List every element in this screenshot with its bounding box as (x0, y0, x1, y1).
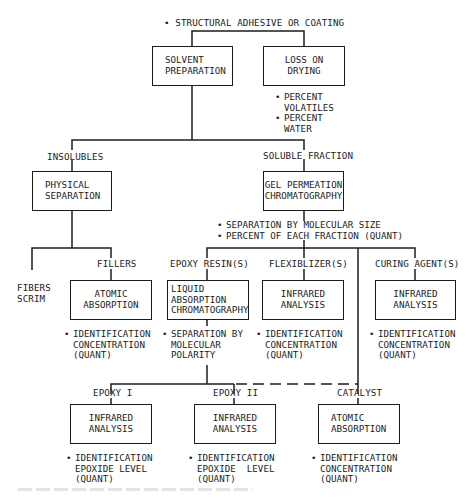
bullet-icon: • (217, 220, 226, 231)
solvent-preparation-box: SOLVENT PREPARATION (152, 46, 233, 86)
bullet-icon: • (66, 453, 75, 485)
epoxy-2-infrared-box: INFRARED ANALYSIS (194, 404, 276, 444)
gel-permeation-results: •SEPARATION BY MOLECULAR SIZE •PERCENT O… (217, 220, 403, 241)
fibers-scrim-label: FIBERS SCRIM (17, 283, 51, 304)
bullet-icon: • (369, 329, 378, 361)
fillers-results: •IDENTIFICATION CONCENTRATION (QUANT) (64, 329, 150, 361)
epoxy-1-results: •IDENTIFICATION EPOXIDE LEVEL (QUANT) (66, 453, 152, 485)
epoxy-resins-results-text: SEPARATION BY MOLECULAR POLARITY (171, 329, 243, 361)
bullet-icon: • (256, 329, 265, 361)
catalyst-label: CATALYST (337, 388, 382, 399)
result-percent-fraction: PERCENT OF EACH FRACTION (QUANT) (226, 231, 403, 242)
bullet-icon: • (64, 329, 73, 361)
root-node: • STRUCTURAL ADHESIVE OR COATING (164, 18, 344, 29)
flexiblizers-label: FLEXIBLIZER(S) (269, 259, 348, 270)
fillers-label: FILLERS (97, 259, 136, 270)
curing-agents-label: CURING AGENT(S) (375, 259, 459, 270)
bullet-icon: • (164, 17, 170, 28)
fillers-atomic-absorption-box: ATOMIC ABSORPTION (70, 280, 152, 320)
epoxy-resins-results: •SEPARATION BY MOLECULAR POLARITY (162, 329, 243, 361)
physical-separation-label: PHYSICAL SEPARATION (45, 180, 100, 201)
gel-permeation-box: GEL PERMEATION CHROMATOGRAPHY (263, 171, 344, 211)
flexiblizers-method-label: INFRARED ANALYSIS (281, 289, 325, 310)
flexiblizers-infrared-box: INFRARED ANALYSIS (262, 280, 344, 320)
bullet-icon: • (311, 453, 320, 485)
soluble-fraction-label: SOLUBLE FRACTION (263, 151, 353, 162)
insolubles-label: INSOLUBLES (47, 152, 103, 163)
epoxy-1-infrared-box: INFRARED ANALYSIS (70, 404, 152, 444)
epoxy-resins-label: EPOXY RESIN(S) (170, 259, 249, 270)
root-label: STRUCTURAL ADHESIVE OR COATING (175, 17, 344, 28)
physical-separation-box: PHYSICAL SEPARATION (32, 171, 112, 211)
flexiblizers-results: •IDENTIFICATION CONCENTRATION (QUANT) (256, 329, 342, 361)
epoxy-1-results-text: IDENTIFICATION EPOXIDE LEVEL (QUANT) (75, 453, 152, 485)
curing-agents-results-text: IDENTIFICATION CONCENTRATION (QUANT) (378, 329, 455, 361)
epoxy-2-label: EPOXY II (213, 388, 258, 399)
gel-permeation-label: GEL PERMEATION CHROMATOGRAPHY (265, 180, 342, 201)
loss-on-drying-box: LOSS ON DRYING (263, 46, 345, 86)
fillers-method-label: ATOMIC ABSORPTION (83, 289, 138, 310)
bullet-icon: • (217, 231, 226, 242)
epoxy-1-method-label: INFRARED ANALYSIS (89, 413, 133, 434)
catalyst-atomic-absorption-box: ATOMIC ABSORPTION (318, 404, 400, 444)
loss-on-drying-results: •PERCENT VOLATILES •PERCENT WATER (275, 92, 334, 134)
catalyst-results-text: IDENTIFICATION CONCENTRATION (QUANT) (320, 453, 397, 485)
solvent-preparation-label: SOLVENT PREPARATION (165, 55, 226, 76)
epoxy-resins-method-label: LIQUID ABSORPTION CHROMATOGRAPHY (171, 284, 248, 316)
catalyst-results: •IDENTIFICATION CONCENTRATION (QUANT) (311, 453, 397, 485)
bullet-icon: • (275, 92, 284, 113)
liquid-absorption-chromatography-box: LIQUID ABSORPTION CHROMATOGRAPHY (167, 280, 249, 320)
bullet-icon: • (275, 113, 284, 134)
epoxy-2-results-text: IDENTIFICATION EPOXIDE LEVEL (QUANT) (197, 453, 274, 485)
epoxy-2-results: •IDENTIFICATION EPOXIDE LEVEL (QUANT) (188, 453, 274, 485)
bullet-icon: • (162, 329, 171, 361)
flexiblizers-results-text: IDENTIFICATION CONCENTRATION (QUANT) (265, 329, 342, 361)
curing-agents-method-label: INFRARED ANALYSIS (393, 289, 437, 310)
curing-agents-infrared-box: INFRARED ANALYSIS (375, 280, 456, 320)
catalyst-method-label: ATOMIC ABSORPTION (331, 413, 386, 434)
epoxy-1-label: EPOXY I (93, 388, 132, 399)
result-percent-water: PERCENT WATER (284, 113, 323, 134)
faded-caption (18, 488, 253, 491)
result-separation-size: SEPARATION BY MOLECULAR SIZE (226, 220, 381, 231)
loss-on-drying-label: LOSS ON DRYING (285, 55, 324, 76)
bullet-icon: • (188, 453, 197, 485)
fillers-results-text: IDENTIFICATION CONCENTRATION (QUANT) (73, 329, 150, 361)
epoxy-2-method-label: INFRARED ANALYSIS (213, 413, 257, 434)
result-percent-volatiles: PERCENT VOLATILES (284, 92, 334, 113)
curing-agents-results: •IDENTIFICATION CONCENTRATION (QUANT) (369, 329, 455, 361)
